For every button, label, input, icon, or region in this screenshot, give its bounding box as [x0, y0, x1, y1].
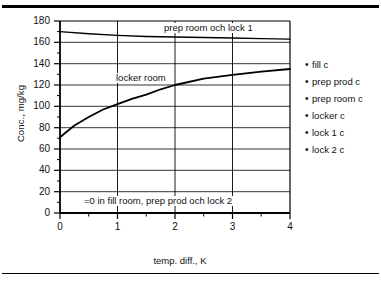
legend-item-lock-2-c[interactable]: • lock 2 c: [305, 144, 381, 161]
x-tick-label: 0: [50, 222, 70, 232]
y-tick-label: 0: [22, 208, 50, 218]
x-gridlines: [118, 21, 233, 213]
x-tick-label: 1: [108, 222, 128, 232]
y-tick-label: 100: [22, 101, 50, 111]
legend-item-fill-c[interactable]: • fill c: [305, 59, 381, 76]
figure: 180 160 140 120 100 80 60 40 20 0 0 1 2 …: [0, 0, 381, 281]
bullet-icon: •: [305, 128, 312, 138]
bullet-icon: •: [305, 77, 312, 87]
y-tick-label: 40: [22, 165, 50, 175]
annotation-locker-room: locker room: [115, 73, 167, 83]
legend-item-label: lock 2 c: [312, 144, 344, 155]
y-tick-label: 120: [22, 80, 50, 90]
x-tick-label: 2: [165, 222, 185, 232]
annotation-zero-series: =0 in fill room, prep prod och lock 2: [83, 196, 233, 206]
bullet-icon: •: [305, 60, 312, 70]
legend-item-prep-prod-c[interactable]: • prep prod c: [305, 76, 381, 93]
x-axis-title: temp. diff., K: [55, 255, 305, 266]
legend-item-label: lock 1 c: [312, 127, 344, 138]
y-tick-label: 140: [22, 59, 50, 69]
legend-item-prep-room-c[interactable]: • prep room c: [305, 93, 381, 110]
y-tick-label: 180: [22, 16, 50, 26]
annotation-prep-room-och-lock-1: prep room och lock 1: [163, 23, 254, 33]
x-tick-label: 3: [223, 222, 243, 232]
y-tick-label: 60: [22, 144, 50, 154]
bullet-icon: •: [305, 111, 312, 121]
y-tick-label: 80: [22, 123, 50, 133]
legend-item-label: prep prod c: [312, 76, 360, 87]
x-tick-label: 4: [280, 222, 300, 232]
bullet-icon: •: [305, 145, 312, 155]
legend-item-label: prep room c: [312, 93, 363, 104]
bullet-icon: •: [305, 94, 312, 104]
y-tick-label: 160: [22, 37, 50, 47]
y-axis-title: Conc., mg/kg: [15, 64, 26, 164]
legend-item-label: fill c: [312, 59, 328, 70]
legend-item-locker-c[interactable]: • locker c: [305, 110, 381, 127]
chart-legend: • fill c • prep prod c • prep room c • l…: [305, 59, 381, 161]
y-tick-label: 20: [22, 187, 50, 197]
legend-item-label: locker c: [312, 110, 345, 121]
legend-item-lock-1-c[interactable]: • lock 1 c: [305, 127, 381, 144]
